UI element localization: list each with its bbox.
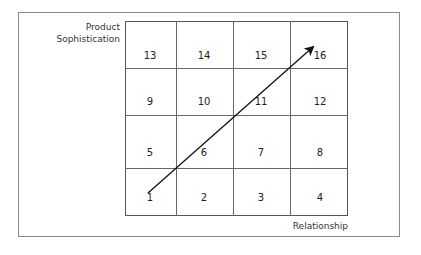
cell-13: 13	[135, 50, 165, 62]
grid-column-divider	[290, 21, 291, 216]
cell-14: 14	[189, 50, 219, 62]
cell-7: 7	[246, 147, 276, 159]
cell-6: 6	[189, 147, 219, 159]
grid-row-divider	[125, 168, 348, 169]
cell-10: 10	[189, 96, 219, 108]
cell-4: 4	[305, 192, 335, 204]
y-axis-label-line1: Product	[40, 21, 120, 33]
x-axis-label: Relationship	[290, 220, 348, 232]
cell-8: 8	[305, 147, 335, 159]
cell-16: 16	[305, 50, 335, 62]
cell-9: 9	[135, 96, 165, 108]
cell-12: 12	[305, 96, 335, 108]
cell-2: 2	[189, 192, 219, 204]
y-axis-label: Product Sophistication	[40, 21, 120, 45]
cell-15: 15	[246, 50, 276, 62]
cell-1: 1	[135, 192, 165, 204]
grid-column-divider	[233, 21, 234, 216]
grid-row-divider	[125, 68, 348, 69]
y-axis-label-line2: Sophistication	[40, 33, 120, 45]
cell-11: 11	[246, 96, 276, 108]
grid-column-divider	[176, 21, 177, 216]
cell-3: 3	[246, 192, 276, 204]
cell-5: 5	[135, 147, 165, 159]
grid-row-divider	[125, 115, 348, 116]
